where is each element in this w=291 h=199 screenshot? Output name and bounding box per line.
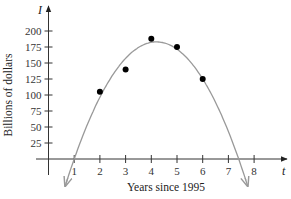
x-tick-label: 3 xyxy=(123,165,129,177)
y-tick-label: 200 xyxy=(25,25,42,37)
y-axis-title: Billions of dollars xyxy=(2,53,14,137)
chart: 25507510012515017520012345678 Billions o… xyxy=(0,0,291,199)
y-tick-label: 50 xyxy=(31,121,43,133)
x-axis-title: Years since 1995 xyxy=(127,181,205,193)
data-point xyxy=(97,89,103,95)
y-tick-label: 75 xyxy=(31,105,43,117)
x-axis-variable: t xyxy=(282,164,286,178)
x-tick-label: 8 xyxy=(251,165,257,177)
axes: 25507510012515017520012345678 xyxy=(25,6,287,177)
y-tick-label: 100 xyxy=(25,89,42,101)
right-arrow xyxy=(245,178,248,186)
y-tick-label: 150 xyxy=(25,57,42,69)
data-point xyxy=(174,44,180,50)
y-tick-label: 125 xyxy=(25,73,42,85)
x-tick-label: 1 xyxy=(71,165,77,177)
parabola xyxy=(66,42,246,184)
y-tick-label: 25 xyxy=(31,137,43,149)
fit-curve xyxy=(65,42,247,186)
x-tick-label: 4 xyxy=(149,165,155,177)
left-arrow xyxy=(65,178,68,186)
x-tick-label: 2 xyxy=(97,165,103,177)
data-point xyxy=(123,66,129,72)
data-points xyxy=(97,36,206,95)
x-tick-label: 5 xyxy=(174,165,180,177)
x-tick-label: 7 xyxy=(226,165,232,177)
x-tick-label: 6 xyxy=(200,165,206,177)
y-tick-label: 175 xyxy=(25,41,42,53)
data-point xyxy=(148,36,154,42)
data-point xyxy=(200,76,206,82)
y-axis-variable: I xyxy=(37,3,43,17)
